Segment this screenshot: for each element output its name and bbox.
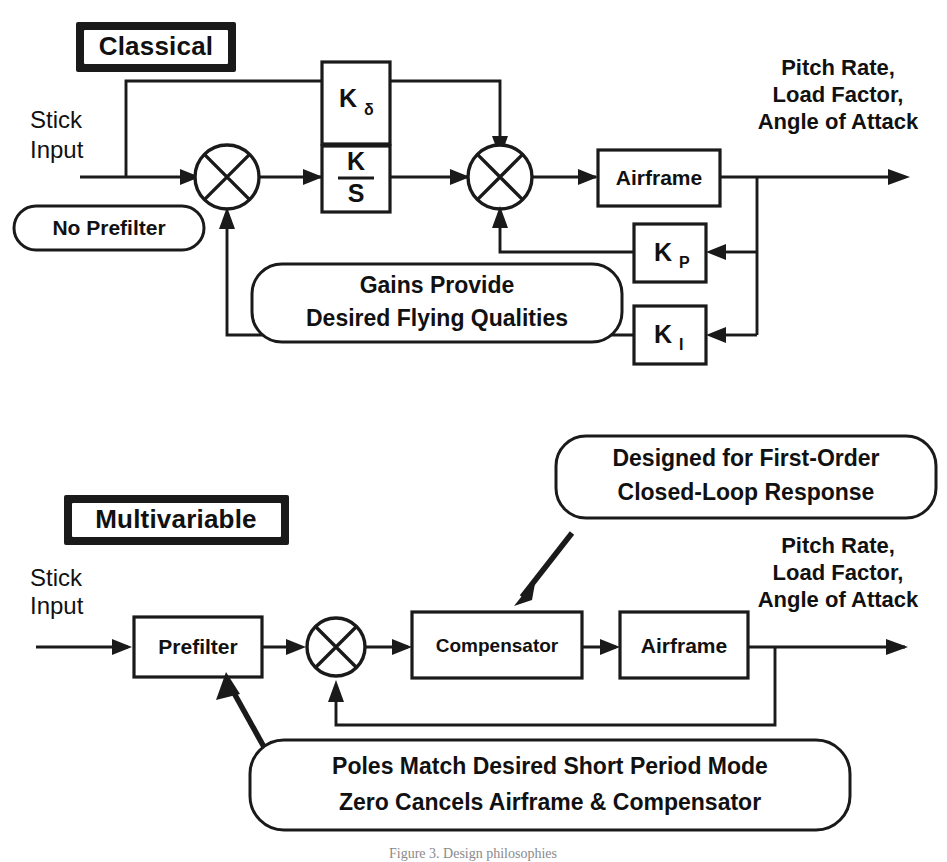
multivariable-design-callout-line1: Designed for First-Order	[612, 445, 879, 471]
multivariable-output-label-line3: Angle of Attack	[758, 587, 919, 612]
multivariable-poles-callout-line2: Zero Cancels Airframe & Compensator	[339, 789, 761, 815]
multivariable-summing-junction	[307, 618, 365, 676]
multivariable-sum-feedback-arrow-icon	[328, 680, 344, 702]
multivariable-poles-callout-line1: Poles Match Desired Short Period Mode	[332, 753, 768, 779]
classical-airframe-block: Airframe	[598, 150, 720, 206]
classical-summing-junction-1	[195, 145, 259, 209]
classical-airframe-label: Airframe	[616, 166, 702, 189]
multivariable-compensator-block: Compensator	[412, 612, 582, 678]
multivariable-output-label-line1: Pitch Rate,	[781, 533, 895, 558]
classical-sum1-feedback-arrow-icon	[219, 207, 235, 229]
multivariable-compensator-label: Compensator	[436, 635, 559, 656]
classical-gain-kdelta-subscript: δ	[364, 101, 374, 118]
multivariable-design-callout-arrow-icon	[514, 578, 536, 606]
classical-gain-k-over-s-block: K S	[322, 146, 390, 212]
multivariable-diagram: Multivariable Stick Input Prefilter Comp…	[30, 436, 936, 830]
classical-header-box: Classical	[76, 22, 236, 72]
multivariable-input-arrow-icon	[112, 639, 132, 655]
multivariable-airframe-block: Airframe	[620, 612, 748, 678]
classical-input-label-line1: Stick	[30, 106, 83, 133]
classical-gain-kp-block: K P	[634, 224, 706, 282]
classical-summing-junction-2	[468, 145, 532, 209]
classical-gain-ki-subscript: I	[679, 336, 683, 353]
classical-gain-ki-label: K	[654, 320, 672, 348]
classical-wire-kp-to-sum2	[500, 215, 634, 252]
multivariable-compensator-input-arrow-icon	[392, 639, 412, 655]
figure-caption: Figure 3. Design philosophies	[389, 846, 557, 861]
classical-output-arrow-icon	[888, 169, 910, 185]
multivariable-prefilter-block: Prefilter	[134, 617, 262, 677]
classical-airframe-input-arrow-icon	[578, 169, 598, 185]
classical-output-label-line2: Load Factor,	[773, 82, 904, 107]
classical-gain-numerator-label: K	[347, 147, 365, 175]
multivariable-input-label-line2: Input	[30, 592, 84, 619]
figure-design-philosophies: Classical Stick Input K δ K	[0, 0, 947, 862]
classical-no-prefilter-label: No Prefilter	[52, 216, 165, 239]
classical-gains-callout-line2: Desired Flying Qualities	[306, 305, 568, 331]
multivariable-prefilter-label: Prefilter	[158, 635, 237, 658]
classical-gain-kp-subscript: P	[679, 254, 690, 271]
multivariable-header-box: Multivariable	[64, 495, 289, 545]
multivariable-design-callout-line2: Closed-Loop Response	[618, 479, 875, 505]
classical-gain-kdelta-label: K	[339, 84, 357, 112]
multivariable-airframe-input-arrow-icon	[600, 639, 620, 655]
multivariable-output-arrow-icon	[886, 639, 908, 655]
classical-gain-kdelta-block: K δ	[322, 62, 390, 144]
classical-kdelta-out-wire	[390, 81, 500, 148]
classical-input-label-line2: Input	[30, 136, 84, 163]
classical-gain-kp-label: K	[654, 238, 672, 266]
classical-ks-input-arrow-icon	[303, 169, 323, 185]
multivariable-header-label: Multivariable	[95, 504, 257, 534]
multivariable-output-label-line2: Load Factor,	[773, 560, 904, 585]
classical-gains-callout: Gains Provide Desired Flying Qualities	[252, 264, 622, 342]
classical-gain-ki-block: K I	[634, 306, 706, 364]
classical-output-label-line1: Pitch Rate,	[781, 55, 895, 80]
classical-gain-denominator-label: S	[348, 179, 365, 207]
multivariable-poles-callout: Poles Match Desired Short Period Mode Ze…	[216, 672, 850, 830]
multivariable-airframe-label: Airframe	[641, 634, 727, 657]
multivariable-sum-input-arrow-icon	[286, 639, 306, 655]
classical-no-prefilter-callout: No Prefilter	[14, 206, 204, 250]
multivariable-input-label-line1: Stick	[30, 564, 83, 591]
classical-ki-input-arrow-icon	[706, 327, 726, 343]
classical-gains-callout-line1: Gains Provide	[360, 272, 515, 298]
classical-kp-input-arrow-icon	[706, 244, 726, 260]
classical-output-label-line3: Angle of Attack	[758, 109, 919, 134]
classical-diagram: Classical Stick Input K δ K	[14, 22, 919, 364]
classical-header-label: Classical	[99, 31, 214, 61]
